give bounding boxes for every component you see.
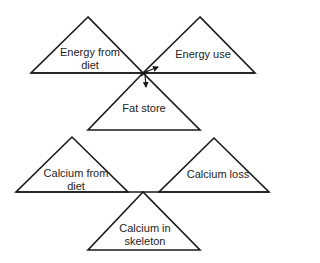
energy-use-label: Energy use [170, 48, 236, 61]
energy-use-triangle [143, 17, 255, 73]
calcium-from-diet-label: Calcium from diet [36, 167, 116, 193]
fat-store-label: Fat store [114, 102, 174, 115]
calcium-loss-triangle [159, 138, 269, 192]
energy-from-diet-label: Energy from diet [52, 46, 128, 72]
calcium-in-skeleton-label: Calcium in skeleton [110, 222, 180, 248]
calcium-loss-label: Calcium loss [180, 168, 256, 181]
